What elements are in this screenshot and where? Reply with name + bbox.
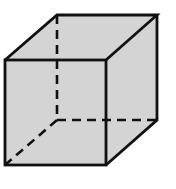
cube-diagram [0,0,176,189]
cube-silhouette [5,15,157,165]
